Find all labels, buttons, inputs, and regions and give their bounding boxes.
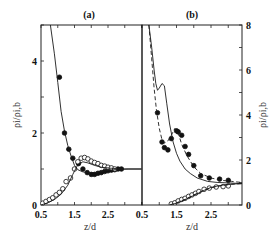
model-solid-decreasing-line [149,25,242,184]
panel-a-plot: 0.51.52.5024 [32,25,142,220]
filled-circle-marker [198,174,203,179]
y-tick-label: 0 [32,200,37,211]
y-tick-label: 6 [246,65,251,76]
x-tick-label: 2.5 [205,209,218,220]
left-ylabel: ρi/ρi,b [11,102,22,128]
filled-circle-marker [155,111,160,116]
open-circle-marker [64,179,69,184]
filled-circle-marker [226,178,231,183]
y-tick-label: 2 [32,128,37,139]
x-tick-label: 1.5 [170,209,183,220]
y-tick-label: 2 [246,155,251,166]
model-solid-increasing-line [41,162,142,205]
panel-b-plot: 0.51.52.502468 [136,20,251,221]
panel-b-xlabel: z/d [186,221,198,232]
model-dashed-decreasing-line [149,25,242,183]
x-tick-label: 1.5 [68,209,81,220]
y-tick-label: 4 [246,110,251,121]
filled-circle-marker [81,167,86,172]
panel-b-title: (b) [186,9,198,21]
panel-a-xlabel: z/d [84,221,96,232]
figure: (a) (b) 0.51.52.5024 0.51.52.502468 z/d … [0,0,279,242]
x-tick-label: 0.5 [35,209,48,220]
filled-circle-marker [166,148,171,153]
panel-a-title: (a) [83,9,95,21]
y-tick-label: 8 [246,20,251,31]
y-tick-label: 0 [246,200,251,211]
x-tick-label: 0.5 [136,209,149,220]
model-solid-decreasing-line [50,25,141,173]
right-ylabel: ρi/ρi,b [257,102,268,128]
model-solid-increasing-line [170,184,243,205]
y-tick-label: 4 [32,56,37,67]
filled-circle-marker [186,152,191,157]
panel-a-frame [41,25,142,205]
x-tick-label: 2.5 [102,209,115,220]
